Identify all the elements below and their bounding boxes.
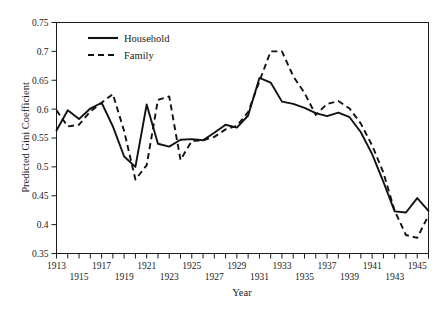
- x-tick-label: 1925: [182, 261, 201, 271]
- y-axis-tick-labels: 0.350.40.450.50.550.60.650.70.75: [32, 18, 49, 259]
- x-tick-label: 1919: [115, 272, 134, 282]
- legend-label-household: Household: [124, 33, 170, 44]
- y-tick-label: 0.75: [32, 18, 49, 28]
- x-tick-label: 1937: [318, 261, 337, 271]
- x-tick-label: 1923: [160, 272, 179, 282]
- y-tick-label: 0.5: [37, 162, 49, 172]
- x-tick-label: 1927: [205, 272, 224, 282]
- y-tick-label: 0.55: [32, 133, 49, 143]
- x-tick-label: 1913: [47, 261, 66, 271]
- series-line-family: [57, 51, 429, 238]
- x-tick-label: 1945: [408, 261, 427, 271]
- x-tick-label: 1933: [272, 261, 291, 271]
- x-tick-label: 1917: [92, 261, 111, 271]
- plot-frame: [57, 23, 429, 254]
- x-axis-ticks: [57, 254, 429, 259]
- series-line-household: [57, 78, 429, 213]
- line-chart: 0.350.40.450.50.550.60.650.70.75 1913191…: [0, 0, 446, 309]
- x-axis-title: Year: [232, 287, 252, 298]
- x-tick-label: 1939: [340, 272, 359, 282]
- chart-legend: Household Family: [88, 33, 170, 61]
- y-tick-label: 0.45: [32, 191, 49, 201]
- y-axis-title: Predicted Gini Coefficient: [20, 82, 31, 193]
- x-tick-label: 1935: [295, 272, 314, 282]
- x-axis-tick-labels: 1913191719211925192919331937194119451915…: [47, 261, 427, 282]
- x-tick-label: 1915: [70, 272, 89, 282]
- x-tick-label: 1931: [250, 272, 269, 282]
- y-tick-label: 0.6: [37, 105, 49, 115]
- x-tick-label: 1943: [385, 272, 404, 282]
- chart-figure: 0.350.40.450.50.550.60.650.70.75 1913191…: [0, 0, 446, 309]
- x-tick-label: 1941: [363, 261, 382, 271]
- y-tick-label: 0.4: [37, 220, 49, 230]
- y-tick-label: 0.65: [32, 76, 49, 86]
- x-tick-label: 1921: [137, 261, 156, 271]
- y-axis-ticks: [52, 23, 57, 254]
- x-tick-label: 1929: [227, 261, 246, 271]
- y-tick-label: 0.35: [32, 249, 49, 259]
- y-tick-label: 0.7: [37, 47, 49, 57]
- legend-label-family: Family: [124, 50, 155, 61]
